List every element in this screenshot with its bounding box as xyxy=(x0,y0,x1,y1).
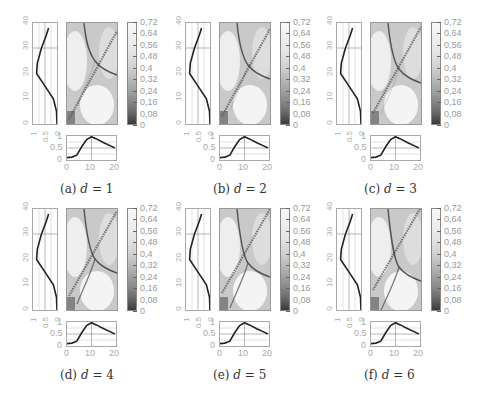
bottom-plot-ytick: 1 xyxy=(57,317,62,327)
left-plot-ytick: 40 xyxy=(325,200,334,214)
colorbar xyxy=(431,22,441,125)
colorbar-tick-mark xyxy=(133,231,137,232)
colorbar-tick-mark xyxy=(133,208,137,209)
bottom-profile-curve xyxy=(67,322,116,346)
bottom-plot-ytick: 0.5 xyxy=(203,142,216,152)
colorbar-tick-label: 0,32 xyxy=(293,261,311,270)
colorbar-tick-mark xyxy=(286,22,290,23)
colorbar-tick-label: 0,16 xyxy=(444,284,462,293)
left-plot-ytick: 20 xyxy=(174,251,183,265)
colorbar-tick-label: 0,16 xyxy=(140,98,158,107)
left-plot-ytick: 40 xyxy=(174,200,183,214)
subfigure-panel-c: 0 10 20 30 40 1 0.5 0 xyxy=(324,16,482,206)
bottom-plot-ytick: 1 xyxy=(361,131,366,141)
colorbar-tick-label: 0,64 xyxy=(293,29,311,38)
left-plot-ytick: 20 xyxy=(21,251,30,265)
subfigure-panel-b: 0 10 20 30 40 1 0.5 0 xyxy=(173,16,333,206)
colorbar-tick-mark xyxy=(133,68,137,69)
colorbar-tick-label: 0,48 xyxy=(293,52,311,61)
colorbar-tick-mark xyxy=(286,68,290,69)
colorbar-tick-mark xyxy=(437,68,441,69)
bottom-plot-ytick: 1 xyxy=(57,131,62,141)
bottom-profile-curve xyxy=(220,322,269,346)
heatmap xyxy=(66,208,118,311)
colorbar-tick-mark xyxy=(437,311,441,312)
bottom-plot-ytick: 0.5 xyxy=(354,328,367,338)
colorbar-tick-label: 0,72 xyxy=(140,204,158,213)
colorbar-tick-mark xyxy=(286,311,290,312)
colorbar-tick-label: 0,16 xyxy=(444,98,462,107)
colorbar-tick-mark xyxy=(437,300,441,301)
colorbar-tick-mark xyxy=(286,265,290,266)
left-plot-xtick: 0.5 xyxy=(41,130,50,144)
colorbar-tick-mark xyxy=(286,125,290,126)
colorbar-tick-label: 0,16 xyxy=(293,98,311,107)
colorbar-tick-label: 0,56 xyxy=(444,227,462,236)
heatmap-image xyxy=(67,209,117,310)
colorbar-tick-mark xyxy=(286,208,290,209)
colorbar-tick-mark xyxy=(437,33,441,34)
left-plot-ytick: 30 xyxy=(21,39,30,53)
colorbar-tick-label: 0,48 xyxy=(293,238,311,247)
colorbar-tick-mark xyxy=(133,277,137,278)
colorbar-tick-label: 0,4 xyxy=(444,64,457,73)
colorbar-tick-mark xyxy=(286,79,290,80)
left-profile-curve xyxy=(186,23,210,124)
colorbar-tick-label: 0,16 xyxy=(140,284,158,293)
colorbar-tick-label: 0,08 xyxy=(444,296,462,305)
colorbar-tick-label: 0 xyxy=(293,307,298,316)
bottom-plot-xtick: 20 xyxy=(109,162,119,172)
bottom-plot-xtick: 20 xyxy=(413,162,423,172)
colorbar-tick-mark xyxy=(286,242,290,243)
left-profile-curve xyxy=(33,209,57,310)
colorbar-tick-label: 0,72 xyxy=(293,204,311,213)
caption-label: (c) xyxy=(364,182,380,196)
colorbar-tick-label: 0 xyxy=(293,121,298,130)
caption-variable: d xyxy=(382,368,390,382)
bottom-plot-xtick: 20 xyxy=(109,348,119,358)
colorbar-tick-mark xyxy=(133,56,137,57)
left-profile-plot xyxy=(336,208,362,311)
bottom-plot-xtick: 10 xyxy=(389,162,399,172)
colorbar-tick-label: 0,32 xyxy=(444,261,462,270)
colorbar-tick-label: 0,4 xyxy=(444,250,457,259)
colorbar xyxy=(280,22,290,125)
heatmap xyxy=(219,22,271,125)
subfigure-caption: (f) d = 6 xyxy=(364,368,482,382)
colorbar-tick-label: 0,64 xyxy=(140,215,158,224)
bottom-plot-ytick: 0 xyxy=(57,154,62,164)
bottom-profile-curve xyxy=(371,136,420,160)
bottom-plot-xtick: 20 xyxy=(413,348,423,358)
subfigure-caption: (c) d = 3 xyxy=(364,182,482,196)
left-profile-curve xyxy=(337,23,361,124)
left-plot-ytick: 40 xyxy=(325,14,334,28)
colorbar-tick-label: 0,48 xyxy=(444,52,462,61)
colorbar-tick-label: 0,08 xyxy=(140,296,158,305)
left-plot-ytick: 10 xyxy=(174,276,183,290)
colorbar-tick-mark xyxy=(133,288,137,289)
colorbar-tick-mark xyxy=(437,91,441,92)
colorbar-tick-label: 0,24 xyxy=(293,87,311,96)
caption-label: (e) xyxy=(213,368,229,382)
heatmap-image xyxy=(220,209,270,310)
left-plot-ytick: 10 xyxy=(21,90,30,104)
left-plot-ytick: 10 xyxy=(174,90,183,104)
heatmap xyxy=(219,208,271,311)
left-plot-ytick: 40 xyxy=(21,200,30,214)
colorbar-tick-mark xyxy=(133,79,137,80)
colorbar-tick-label: 0,64 xyxy=(293,215,311,224)
colorbar-tick-label: 0,56 xyxy=(293,41,311,50)
left-plot-xtick: 1 xyxy=(29,313,38,327)
colorbar-tick-label: 0 xyxy=(140,121,145,130)
bottom-profile-curve xyxy=(67,136,116,160)
colorbar-tick-label: 0,24 xyxy=(444,87,462,96)
colorbar-tick-mark xyxy=(286,91,290,92)
colorbar-tick-mark xyxy=(437,208,441,209)
left-plot-xtick: 0.5 xyxy=(345,316,354,330)
colorbar-tick-label: 0,56 xyxy=(140,41,158,50)
subfigure-panel-d: 0 10 20 30 40 1 0.5 0 xyxy=(20,202,180,392)
colorbar-tick-label: 0,72 xyxy=(444,204,462,213)
subfigure-panel-f: 0 10 20 30 40 1 0.5 0 xyxy=(324,202,482,392)
colorbar-tick-mark xyxy=(133,114,137,115)
colorbar-tick-mark xyxy=(286,33,290,34)
